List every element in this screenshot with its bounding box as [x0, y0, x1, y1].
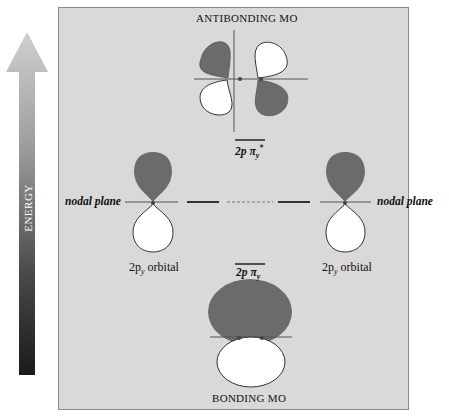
orbital-diagram	[0, 0, 449, 418]
left-nodal-plane-label: nodal plane	[65, 195, 121, 207]
bonding-level-label: 2p πy	[236, 266, 260, 281]
bonding-mo-graphic	[208, 279, 292, 387]
bonding-mo-title: BONDING MO	[212, 392, 286, 404]
antibonding-level-label: 2p πy*	[235, 143, 263, 160]
right-nodal-plane-label: nodal plane	[377, 195, 433, 207]
antibonding-mo-graphic	[194, 30, 308, 132]
antibonding-mo-title: ANTIBONDING MO	[196, 12, 298, 24]
right-orbital-label: 2py orbital	[322, 260, 372, 276]
left-2py-orbital-graphic	[125, 152, 178, 252]
right-2py-orbital-graphic	[320, 152, 371, 252]
left-orbital-label: 2py orbital	[129, 260, 179, 276]
